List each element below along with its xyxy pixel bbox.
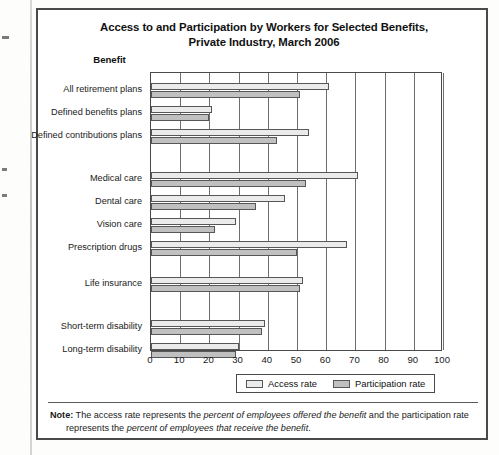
page-background: Access to and Participation by Workers f… [0,0,499,455]
gridline [326,73,327,350]
chart-title: Access to and Participation by Workers f… [38,20,490,50]
bar-access-rate [151,218,236,225]
bar-access-rate [151,241,347,248]
chart-title-line-1: Access to and Participation by Workers f… [100,21,428,33]
scan-edge-artifact [30,0,32,455]
category-label: Life insurance [85,278,142,288]
note-text-4: . [308,423,311,433]
gridline [355,73,356,350]
x-axis-tick-label: 10 [174,354,185,365]
note-emphasis-2: percent of employees that receive the be… [127,423,308,433]
x-axis-tick-label: 70 [349,354,360,365]
x-axis-tick-label: 60 [320,354,331,365]
category-label: Long-term disability [62,344,142,354]
gridline [297,73,298,350]
x-axis-tick-label: 80 [378,354,389,365]
category-label: Dental care [95,196,142,206]
bar-participation-rate [151,114,209,121]
bar-participation-rate [151,91,300,98]
bar-participation-rate [151,328,262,335]
bar-access-rate [151,320,265,327]
legend-item-participation-rate: Participation rate [333,378,425,389]
chart-title-line-2: Private Industry, March 2006 [38,35,490,50]
margin-mark [2,168,7,171]
legend-item-access-rate: Access rate [246,378,317,389]
x-axis-tick-labels: 0102030405060708090100 [150,354,442,370]
figure-panel: Access to and Participation by Workers f… [36,8,488,440]
gridline [209,73,210,350]
gridline [414,73,415,350]
x-axis-tick-label: 0 [147,354,152,365]
margin-mark [2,194,7,197]
category-label: Defined benefits plans [51,107,142,117]
gridline [385,73,386,350]
note-label: Note: [50,410,73,420]
gridline [239,73,240,350]
category-label: Short-term disability [61,321,142,331]
category-label: Medical care [90,173,142,183]
x-axis-tick-label: 20 [203,354,214,365]
gridline [268,73,269,350]
x-axis-tick-label: 40 [261,354,272,365]
x-axis-tick-label: 100 [434,354,450,365]
note-line-2: represents the percent of employees that… [50,422,478,435]
x-axis-tick-label: 30 [232,354,243,365]
bar-access-rate [151,129,309,136]
category-label: Defined contributions plans [31,130,142,140]
bar-access-rate [151,83,329,90]
legend-label-participation-rate: Participation rate [355,378,425,389]
chart-legend: Access rate Participation rate [236,374,435,393]
bar-participation-rate [151,249,297,256]
bar-participation-rate [151,226,215,233]
margin-mark [2,36,9,39]
x-axis-tick-label: 50 [291,354,302,365]
figure-note: Note: The access rate represents the per… [50,409,478,434]
bar-access-rate [151,277,303,284]
chart-area: Benefit All retirement plansDefined bene… [38,54,490,359]
bar-access-rate [151,172,358,179]
bar-participation-rate [151,180,306,187]
legend-label-access-rate: Access rate [268,378,317,389]
bar-participation-rate [151,203,256,210]
category-axis-title: Benefit [70,54,149,65]
bar-access-rate [151,195,285,202]
bar-access-rate [151,106,212,113]
x-axis-tick-label: 90 [407,354,418,365]
legend-swatch-participation-rate [333,380,350,388]
note-emphasis-1: percent of employees offered the benefit [204,410,367,420]
gridline [443,73,444,350]
category-label: Vision care [97,219,142,229]
bar-participation-rate [151,285,300,292]
bar-access-rate [151,343,239,350]
plot-area [150,72,442,351]
legend-swatch-access-rate [246,380,263,388]
bar-participation-rate [151,137,277,144]
category-label: All retirement plans [63,84,142,94]
note-text-2: and the participation rate [366,410,469,420]
category-label: Prescription drugs [68,242,142,252]
category-label-list: All retirement plansDefined benefits pla… [38,72,146,351]
note-divider [48,402,478,403]
note-text-3: represents the [66,423,127,433]
note-text-1: The access rate represents the [73,410,203,420]
